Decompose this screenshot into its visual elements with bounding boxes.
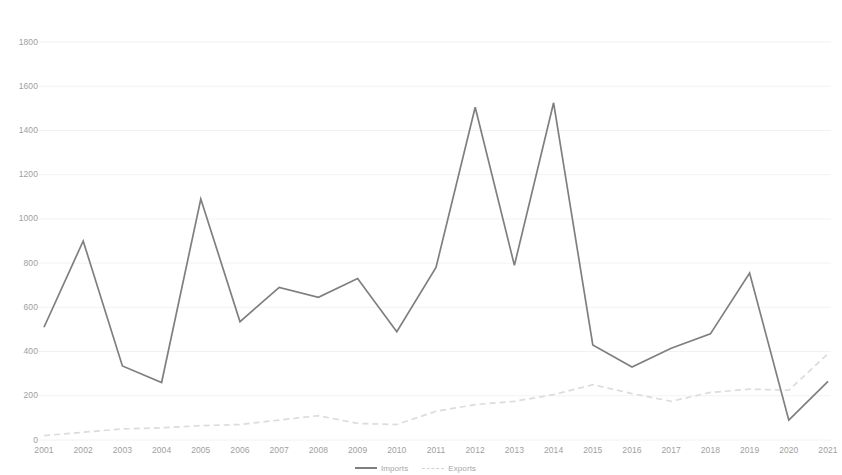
legend-label-imports: Imports <box>381 464 408 473</box>
x-tick-label: 2009 <box>338 446 378 455</box>
legend-label-exports: Exports <box>448 464 476 473</box>
x-tick-label: 2013 <box>494 446 534 455</box>
legend-swatch-exports-icon <box>422 468 444 469</box>
x-tick-label: 2019 <box>730 446 770 455</box>
x-tick-label: 2011 <box>416 446 456 455</box>
x-tick-label: 2001 <box>24 446 64 455</box>
x-tick-label: 2007 <box>259 446 299 455</box>
legend-item-exports[interactable]: Exports <box>422 464 476 473</box>
x-tick-label: 2008 <box>298 446 338 455</box>
legend-swatch-imports-icon <box>355 467 377 469</box>
x-tick-label: 2020 <box>769 446 809 455</box>
x-tick-label: 2018 <box>690 446 730 455</box>
x-tick-label: 2002 <box>63 446 103 455</box>
x-tick-label: 2014 <box>534 446 574 455</box>
x-tick-label: 2006 <box>220 446 260 455</box>
x-tick-label: 2010 <box>377 446 417 455</box>
x-tick-label: 2012 <box>455 446 495 455</box>
x-tick-label: 2021 <box>808 446 842 455</box>
x-tick-label: 2017 <box>651 446 691 455</box>
x-tick-label: 2015 <box>573 446 613 455</box>
legend-item-imports[interactable]: Imports <box>355 464 408 473</box>
x-tick-label: 2005 <box>181 446 221 455</box>
x-tick-label: 2003 <box>102 446 142 455</box>
x-tick-label: 2016 <box>612 446 652 455</box>
x-tick-label: 2004 <box>142 446 182 455</box>
chart-legend: Imports Exports <box>0 461 831 475</box>
